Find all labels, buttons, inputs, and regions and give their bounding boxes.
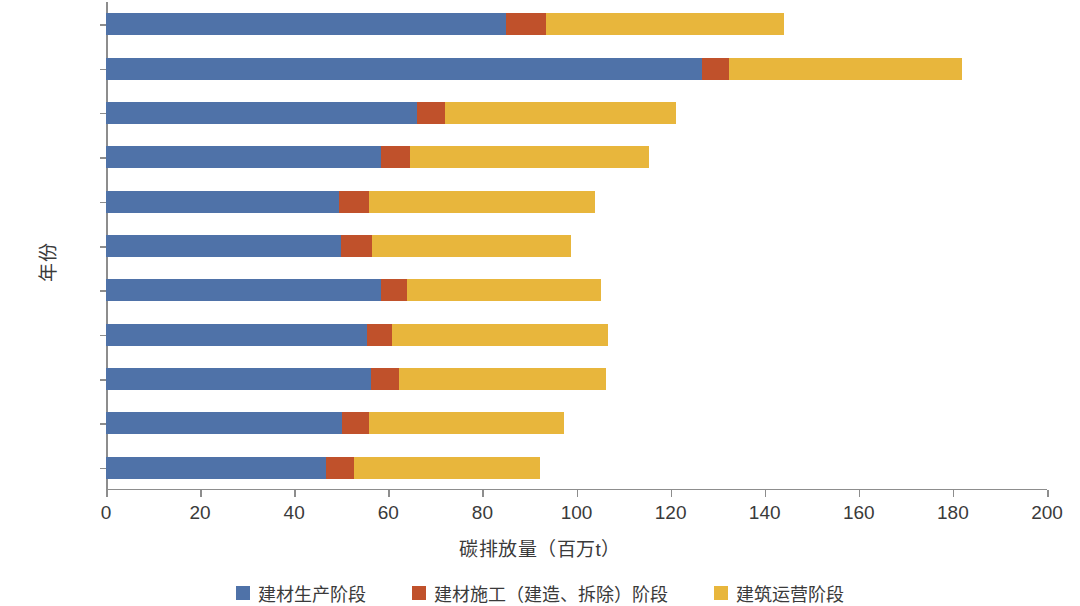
bar-segment-production: [106, 235, 341, 257]
plot-area: 0204060801001201401601802002020201920182…: [106, 2, 1047, 490]
legend-item-2[interactable]: 建材施工（建造、拆除）阶段: [412, 580, 668, 606]
x-axis-tick-label: 180: [937, 502, 969, 524]
bar-segment-construction: [326, 457, 354, 479]
legend-label: 建材生产阶段: [258, 580, 366, 606]
bar-segment-operation: [354, 457, 540, 479]
bar-segment-production: [106, 279, 381, 301]
bar-2013: [106, 324, 608, 346]
bar-segment-construction: [702, 58, 729, 80]
x-axis-tick-label: 200: [1031, 502, 1063, 524]
x-axis-tick-label: 120: [655, 502, 687, 524]
x-axis-tick-label: 80: [472, 502, 493, 524]
legend-swatch-icon: [714, 586, 728, 600]
bar-segment-production: [106, 368, 371, 390]
x-axis-tick: [482, 490, 484, 497]
x-axis-tick: [765, 490, 767, 497]
bar-segment-construction: [381, 146, 410, 168]
x-axis-tick-label: 60: [378, 502, 399, 524]
legend-swatch-icon: [236, 586, 250, 600]
x-axis-tick: [671, 490, 673, 497]
chart-legend: 建材生产阶段建材施工（建造、拆除）阶段建筑运营阶段: [0, 580, 1080, 606]
bar-segment-production: [106, 412, 342, 434]
bar-2018: [106, 102, 676, 124]
bar-2010: [106, 457, 540, 479]
x-axis-tick: [953, 490, 955, 497]
bar-segment-construction: [342, 412, 368, 434]
bar-segment-construction: [381, 279, 406, 301]
bar-segment-production: [106, 324, 367, 346]
x-axis-tick-label: 40: [284, 502, 305, 524]
bar-segment-production: [106, 102, 417, 124]
bar-2011: [106, 412, 564, 434]
bar-segment-construction: [341, 235, 372, 257]
bar-segment-construction: [367, 324, 392, 346]
bar-2014: [106, 279, 601, 301]
bar-2015: [106, 235, 571, 257]
x-axis-tick: [106, 490, 108, 497]
x-axis-tick: [577, 490, 579, 497]
bar-segment-operation: [369, 191, 595, 213]
bar-segment-operation: [407, 279, 601, 301]
bar-2020: [106, 13, 784, 35]
x-axis-tick-label: 160: [843, 502, 875, 524]
legend-swatch-icon: [412, 586, 426, 600]
y-axis-title: 年份: [33, 202, 60, 322]
x-axis-tick-label: 140: [749, 502, 781, 524]
bar-segment-production: [106, 13, 506, 35]
bar-2017: [106, 146, 649, 168]
bar-2019: [106, 58, 962, 80]
bar-segment-operation: [372, 235, 571, 257]
bar-segment-operation: [410, 146, 649, 168]
bar-2012: [106, 368, 606, 390]
bar-segment-operation: [369, 412, 564, 434]
bar-segment-operation: [729, 58, 962, 80]
legend-item-3[interactable]: 建筑运营阶段: [714, 580, 844, 606]
x-axis-tick: [859, 490, 861, 497]
bar-segment-operation: [399, 368, 606, 390]
legend-label: 建筑运营阶段: [736, 580, 844, 606]
bar-segment-operation: [546, 13, 784, 35]
x-axis-tick-label: 20: [190, 502, 211, 524]
bar-segment-construction: [417, 102, 444, 124]
bar-segment-operation: [445, 102, 676, 124]
stacked-bar-chart: 年份 0204060801001201401601802002020201920…: [0, 0, 1080, 606]
x-axis-tick-label: 100: [561, 502, 593, 524]
x-axis-tick: [200, 490, 202, 497]
x-axis-tick: [1047, 490, 1049, 497]
x-axis-tick: [294, 490, 296, 497]
bar-segment-production: [106, 191, 339, 213]
bar-segment-construction: [371, 368, 398, 390]
bar-2016: [106, 191, 595, 213]
legend-label: 建材施工（建造、拆除）阶段: [434, 580, 668, 606]
x-axis-tick: [388, 490, 390, 497]
bar-segment-production: [106, 146, 381, 168]
bar-segment-operation: [392, 324, 607, 346]
legend-item-1[interactable]: 建材生产阶段: [236, 580, 366, 606]
bar-segment-production: [106, 58, 702, 80]
x-axis-tick-label: 0: [101, 502, 112, 524]
x-axis-title: 碳排放量（百万t）: [0, 534, 1080, 561]
bar-segment-construction: [506, 13, 546, 35]
bar-segment-construction: [339, 191, 368, 213]
bar-segment-production: [106, 457, 326, 479]
